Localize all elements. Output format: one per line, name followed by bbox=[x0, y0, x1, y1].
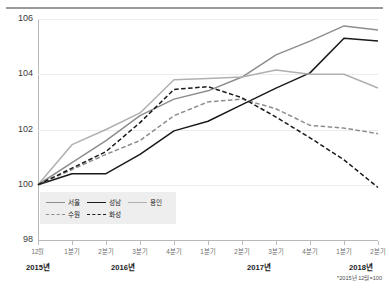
chart-legend: 서울성남용인 수원화성 bbox=[40, 192, 176, 224]
x-tick-label-10: 2분기 bbox=[358, 247, 389, 256]
x-tick-2 bbox=[106, 241, 107, 245]
legend-item-수원[interactable]: 수원 bbox=[46, 209, 80, 219]
legend-row-secondary: 수원화성 bbox=[46, 208, 171, 220]
year-group-2015년: 2015년 bbox=[20, 261, 56, 272]
gridline-100 bbox=[38, 185, 378, 186]
legend-swatch-수원 bbox=[46, 214, 65, 215]
x-tick-0 bbox=[38, 241, 39, 245]
x-tick-1 bbox=[72, 241, 73, 245]
legend-swatch-용인 bbox=[128, 202, 147, 203]
series-line-화성 bbox=[38, 87, 378, 188]
chart-footnote: *2015년 12월=100 bbox=[337, 274, 382, 282]
x-tick-3 bbox=[140, 241, 141, 245]
series-line-성남 bbox=[38, 38, 378, 184]
series-line-수원 bbox=[38, 99, 378, 185]
legend-item-화성[interactable]: 화성 bbox=[87, 209, 121, 219]
legend-label-화성: 화성 bbox=[109, 209, 121, 219]
gridline-104 bbox=[38, 74, 378, 75]
year-group-2017년: 2017년 bbox=[241, 261, 277, 272]
legend-label-용인: 용인 bbox=[150, 197, 162, 207]
x-tick-5 bbox=[208, 241, 209, 245]
legend-item-성남[interactable]: 성남 bbox=[87, 197, 121, 207]
legend-row-primary: 서울성남용인 bbox=[46, 196, 171, 208]
x-tick-9 bbox=[344, 241, 345, 245]
year-group-2016년: 2016년 bbox=[105, 261, 141, 272]
legend-swatch-화성 bbox=[87, 214, 106, 215]
header-divider bbox=[6, 7, 383, 9]
y-tick-label-100: 100 bbox=[3, 180, 33, 189]
legend-swatch-성남 bbox=[87, 202, 106, 203]
legend-label-수원: 수원 bbox=[68, 209, 80, 219]
gridline-106 bbox=[38, 19, 378, 20]
legend-label-성남: 성남 bbox=[109, 197, 121, 207]
legend-swatch-서울 bbox=[46, 202, 65, 203]
x-tick-4 bbox=[174, 241, 175, 245]
chart-root: 98100102104106 12월1분기2분기3분기4분기1분기2분기3분기4… bbox=[0, 0, 389, 293]
legend-item-서울[interactable]: 서울 bbox=[46, 197, 80, 207]
x-tick-10 bbox=[378, 241, 379, 245]
legend-label-서울: 서울 bbox=[68, 197, 80, 207]
legend-item-용인[interactable]: 용인 bbox=[128, 197, 162, 207]
gridline-102 bbox=[38, 130, 378, 131]
y-tick-label-106: 106 bbox=[3, 14, 33, 23]
series-line-서울 bbox=[38, 26, 378, 185]
x-tick-8 bbox=[310, 241, 311, 245]
year-group-2018년: 2018년 bbox=[343, 261, 379, 272]
series-line-용인 bbox=[38, 70, 378, 185]
x-tick-7 bbox=[276, 241, 277, 245]
x-tick-6 bbox=[242, 241, 243, 245]
y-tick-label-102: 102 bbox=[3, 125, 33, 134]
y-tick-label-98: 98 bbox=[3, 235, 33, 244]
y-tick-label-104: 104 bbox=[3, 69, 33, 78]
